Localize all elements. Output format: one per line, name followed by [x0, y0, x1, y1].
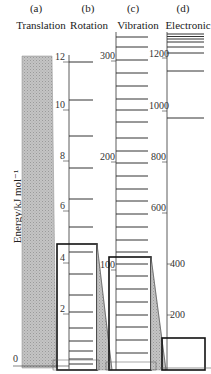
svg-text:1200: 1200: [149, 48, 169, 59]
svg-text:2: 2: [60, 303, 65, 314]
svg-text:10: 10: [55, 99, 65, 110]
svg-text:100: 100: [100, 259, 115, 270]
svg-text:300: 300: [100, 50, 115, 61]
svg-text:6: 6: [60, 200, 65, 211]
vibration-ticks: 300 200 100: [100, 50, 116, 270]
svg-text:4: 4: [60, 252, 65, 263]
svg-text:200: 200: [100, 151, 115, 162]
vibration-levels: [116, 37, 148, 353]
svg-text:0: 0: [13, 353, 18, 364]
svg-text:12: 12: [55, 51, 65, 62]
energy-level-diagram: 12 10 8 6 4 2 0 300 200 100: [0, 0, 211, 374]
svg-text:1000: 1000: [149, 100, 169, 111]
rotation-levels: [69, 62, 93, 364]
svg-text:8: 8: [60, 150, 65, 161]
electronic-levels: [167, 34, 204, 118]
svg-text:600: 600: [151, 202, 166, 213]
svg-text:200: 200: [170, 309, 185, 320]
svg-text:800: 800: [151, 151, 166, 162]
electronic-zoom-box: [162, 338, 205, 370]
svg-text:400: 400: [170, 258, 185, 269]
translation-continuum: [22, 56, 56, 368]
